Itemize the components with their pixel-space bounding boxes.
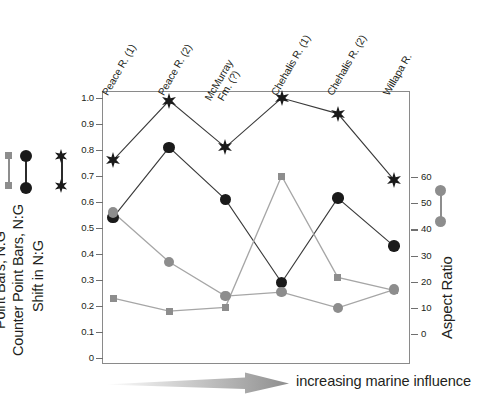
square-marker-icon [222, 304, 229, 311]
legend-swatch-aspect-ratio [432, 185, 450, 229]
right-axis-tick-label: 60 [421, 171, 447, 182]
square-marker-icon [334, 274, 341, 281]
right-axis-title: Aspect Ratio [438, 256, 455, 339]
left-axis-tick [96, 280, 103, 281]
circle-marker-icon [389, 284, 400, 295]
star-marker-icon [105, 152, 121, 168]
square-marker-icon [5, 182, 12, 189]
left-axis-tick [96, 124, 103, 125]
x-axis-label-4: Chehalis R. (2) [326, 34, 369, 98]
left-axis-tick-label: 0.9 [62, 118, 94, 129]
left-axis-tick [96, 176, 103, 177]
circle-marker-icon [163, 142, 175, 154]
circle-marker-icon [388, 240, 400, 252]
right-axis-tick [411, 203, 418, 204]
left-axis-tick-label: 0.6 [62, 196, 94, 207]
circle-marker-icon [20, 182, 32, 194]
left-axis-tick-label: 0.4 [62, 248, 94, 259]
right-axis-tick [411, 177, 418, 178]
right-axis-tick [411, 334, 418, 335]
square-marker-icon [5, 152, 12, 159]
star-marker-icon [54, 149, 68, 167]
circle-marker-icon [20, 150, 32, 162]
square-marker-icon [110, 295, 117, 302]
left-axis-tick [96, 358, 103, 359]
left-axis-tick [96, 202, 103, 203]
legend-label-counter-point-bars: Counter Point Bars, N:G [10, 204, 26, 356]
x-axis-label-0: Peace R. (1) [101, 43, 139, 98]
legend-swatch-counter-point-bars [1, 152, 17, 192]
increasing-influence-arrow-icon [104, 372, 289, 394]
left-axis-tick-label: 0.1 [62, 326, 94, 337]
square-marker-icon [278, 173, 285, 180]
left-axis-tick-label: 0.5 [62, 222, 94, 233]
circle-marker-icon [108, 207, 119, 218]
left-axis-tick-label: 0 [62, 352, 94, 363]
arrow-caption: increasing marine influence [296, 373, 471, 389]
circle-marker-icon [220, 291, 231, 302]
circle-marker-icon [435, 216, 446, 227]
circle-marker-icon [435, 185, 446, 196]
right-axis-tick [411, 282, 418, 283]
x-axis-label-3: Chehalis R. (1) [269, 34, 312, 98]
star-marker-icon [386, 172, 402, 188]
left-axis-tick [96, 306, 103, 307]
left-axis-tick-label: 0.3 [62, 274, 94, 285]
plot-area [102, 91, 410, 364]
left-axis-tick [96, 150, 103, 151]
left-axis-tick [96, 254, 103, 255]
left-axis-tick [96, 98, 103, 99]
circle-marker-icon [332, 192, 344, 204]
right-axis-tick [411, 308, 418, 309]
star-marker-icon [161, 93, 177, 109]
star-marker-icon [330, 106, 346, 122]
star-marker-icon [274, 90, 290, 106]
x-axis-label-1: Peace R. (2) [157, 43, 195, 98]
legend-swatch-point-bars [53, 150, 71, 194]
left-axis-tick [96, 332, 103, 333]
left-axis-tick-label: 1.0 [62, 92, 94, 103]
legend-label-point-bars: Point Bars, N:G [0, 231, 8, 329]
right-axis-tick [411, 229, 418, 230]
left-axis-tick [96, 228, 103, 229]
legend-swatch-shift-in-ng [17, 150, 35, 194]
legend-label-shift-in-ng: Shift in N:G [30, 240, 46, 312]
chart-canvas: 1.00.90.80.70.60.50.40.30.20.10 60504030… [0, 0, 492, 415]
star-marker-icon [54, 179, 68, 197]
star-marker-icon [217, 139, 233, 155]
square-marker-icon [166, 308, 173, 315]
left-axis-tick-label: 0.2 [62, 300, 94, 311]
circle-marker-icon [333, 303, 344, 314]
right-axis-tick [411, 256, 418, 257]
